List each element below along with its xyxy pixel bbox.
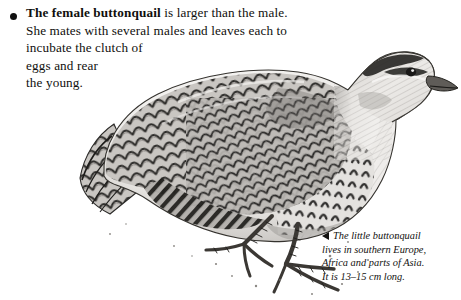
fact-line-1-rest: is larger than the male. [161,5,288,20]
caption-line-2: lives in southern Europe, [322,243,458,257]
bullet-dot-icon [10,13,17,20]
illustrated-fact-page: The female buttonquail is larger than th… [0,0,461,300]
illustration-caption: The little buttonquail lives in southern… [322,229,458,284]
caption-line-1: The little buttonquail [322,229,458,243]
fact-line-1: The female buttonquail is larger than th… [26,4,330,22]
caption-line-1-text: The little buttonquail [333,230,421,241]
fact-lead-bold: The female buttonquail [26,5,161,20]
left-pointing-triangle-icon [322,232,329,240]
caption-line-4: It is 13–15 cm long. [322,270,458,284]
caption-line-3: Africa and parts of Asia. [322,256,458,270]
bird-beak [426,76,458,91]
bird-eye [406,68,416,77]
